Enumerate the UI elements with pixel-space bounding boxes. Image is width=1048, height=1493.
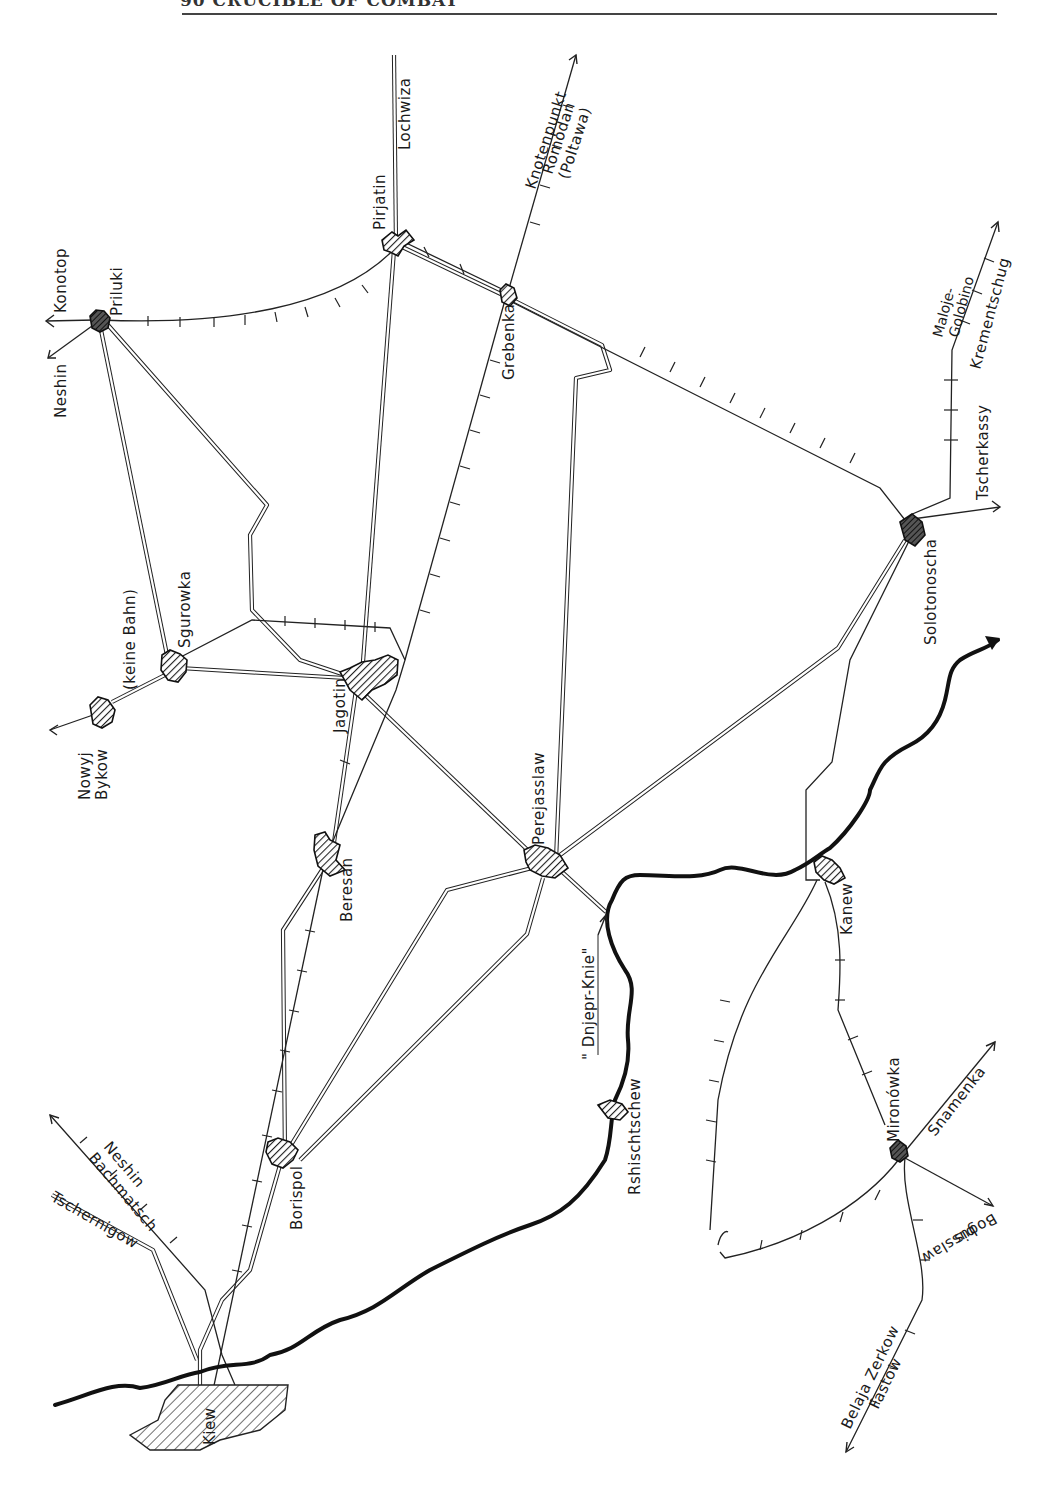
dnieper-river <box>55 640 998 1405</box>
label-nowyj: Nowyj <box>76 752 94 800</box>
railway-road-map: Priluki Konotop Neshin Pirjatin Lochwiza… <box>0 0 1048 1493</box>
label-borispol: Borispol <box>288 1166 306 1230</box>
label-keine-bahn: (keine Bahn) <box>121 589 139 690</box>
label-krementschug: Krementschug <box>966 256 1013 371</box>
town-rshischtschew <box>598 1100 628 1120</box>
label-kiew: Kiew <box>201 1407 219 1445</box>
label-snamenka: Snamenka <box>924 1063 989 1140</box>
label-priluki: Priluki <box>108 267 126 316</box>
town-priluki <box>90 310 110 332</box>
town-mironowka <box>890 1140 908 1162</box>
railways <box>46 55 1000 1452</box>
label-solotonoscha: Solotonoscha <box>922 538 940 645</box>
label-perejasslaw: Perejasslaw <box>530 752 548 845</box>
label-neshin-north: Neshin <box>52 364 70 418</box>
labels: Priluki Konotop Neshin Pirjatin Lochwiza… <box>47 77 1013 1445</box>
label-tscherkassy: Tscherkassy <box>974 405 992 501</box>
label-konotop: Konotop <box>52 248 70 313</box>
label-jagotin: Jagotin <box>331 678 349 734</box>
towns <box>90 230 925 1450</box>
label-rshischtschew: Rshischtschew <box>626 1078 644 1195</box>
label-kanew: Kanew <box>838 883 856 935</box>
label-bykow: Bykow <box>93 749 111 800</box>
label-sgurowka: Sgurowka <box>176 571 194 648</box>
label-pirjatin: Pirjatin <box>371 174 389 230</box>
town-perejasslaw <box>524 845 568 878</box>
label-dnjepr-knie: " Dnjepr-Knie" <box>580 947 598 1060</box>
label-grebenka: Grebenka <box>500 303 518 380</box>
roads <box>52 55 905 1385</box>
label-beresan: Beresan <box>338 857 356 922</box>
label-mironowka: Mironówka <box>885 1057 903 1142</box>
label-bogusslaw: Bogusslaw <box>918 1210 1000 1268</box>
label-lochwiza: Lochwiza <box>396 77 414 150</box>
town-nowyj-bykow <box>90 697 115 728</box>
